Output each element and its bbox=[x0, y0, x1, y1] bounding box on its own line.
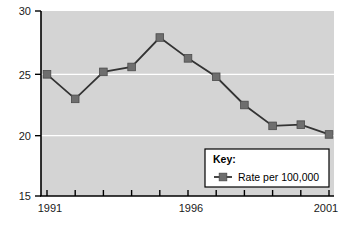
data-point-1998 bbox=[241, 101, 249, 109]
x-tick-label-1991: 1991 bbox=[38, 202, 62, 214]
y-tick-label-15: 15 bbox=[19, 190, 31, 202]
legend: Key: Rate per 100,000 bbox=[205, 149, 329, 187]
y-axis-ticks bbox=[35, 11, 41, 196]
data-point-1993 bbox=[100, 68, 108, 76]
data-point-1991 bbox=[43, 71, 51, 79]
data-point-1992 bbox=[71, 95, 79, 103]
y-tick-label-20: 20 bbox=[19, 130, 31, 142]
data-point-1999 bbox=[269, 122, 277, 130]
data-point-2000 bbox=[297, 121, 305, 129]
x-tick-label-2001: 2001 bbox=[314, 202, 338, 214]
data-point-1996 bbox=[184, 55, 192, 63]
data-point-1997 bbox=[212, 73, 220, 81]
legend-title: Key: bbox=[213, 153, 236, 165]
legend-entry-label: Rate per 100,000 bbox=[238, 171, 319, 183]
data-point-1994 bbox=[128, 63, 136, 71]
chart-canvas: 30 25 20 15 1991 1996 2001 bbox=[0, 0, 360, 228]
x-tick-label-1996: 1996 bbox=[179, 202, 203, 214]
data-point-2001 bbox=[325, 131, 333, 139]
data-point-1995 bbox=[156, 34, 164, 42]
line-chart: 30 25 20 15 1991 1996 2001 bbox=[0, 0, 360, 228]
y-tick-label-25: 25 bbox=[19, 69, 31, 81]
y-tick-label-30: 30 bbox=[19, 5, 31, 17]
